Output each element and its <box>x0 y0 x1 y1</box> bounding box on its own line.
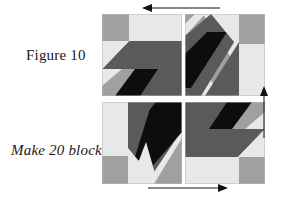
make-blocks-instruction: Make 20 blocks <box>11 143 108 158</box>
quilt-row-top <box>102 14 266 96</box>
right-arrow-glyph <box>258 86 270 138</box>
block-art-top-left <box>102 14 182 96</box>
figure-caption: Figure 10 <box>26 48 86 63</box>
quilt-row-bottom <box>102 102 266 184</box>
right-arrow <box>258 86 270 138</box>
quilt-block-bottom-left <box>102 102 182 184</box>
figure-canvas: Figure 10 Make 20 blocks <box>0 0 284 199</box>
quilt-assembly-diagram <box>102 14 266 184</box>
block-art-bottom-left <box>102 102 182 184</box>
quilt-block-bottom-right <box>185 102 265 184</box>
top-arrow <box>142 2 220 14</box>
quilt-block-top-left <box>102 14 182 96</box>
quilt-block-top-right <box>185 14 265 96</box>
bottom-arrow-glyph <box>148 182 228 194</box>
bottom-arrow <box>148 182 228 194</box>
block-art-bottom-right <box>185 102 265 184</box>
top-arrow-glyph <box>142 2 220 14</box>
block-art-top-right <box>185 14 265 96</box>
